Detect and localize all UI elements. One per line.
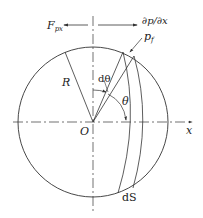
theta-line-2 <box>93 56 134 122</box>
origin-label: O <box>80 125 89 138</box>
dtheta-label: dθ <box>98 73 110 84</box>
x-axis-label: x <box>186 124 193 137</box>
force-label: Fpx <box>46 19 63 33</box>
ds-label: dS <box>122 191 137 204</box>
dtheta-arc <box>93 90 106 92</box>
theta-label: θ <box>122 95 129 108</box>
radius-label: R <box>61 76 70 89</box>
pressure-pointer <box>130 38 142 52</box>
theta-line-1 <box>93 52 123 122</box>
pipe-cross-section-diagram: Fpx ∂p/∂x pf R dθ θ O x dS <box>0 0 203 218</box>
ds-arc-1 <box>118 52 130 193</box>
gradient-label: ∂p/∂x <box>142 15 168 26</box>
pressure-label: pf <box>144 30 155 44</box>
